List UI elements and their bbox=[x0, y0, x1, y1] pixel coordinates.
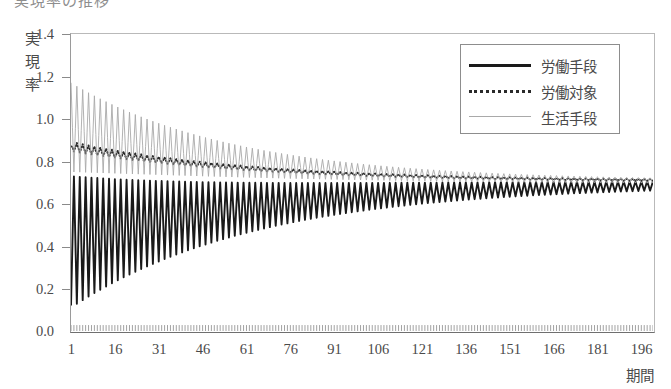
page-title: 実現率の推移 bbox=[14, 0, 110, 9]
x-axis-tick-label: 166 bbox=[534, 342, 574, 357]
x-axis-tick-label: 106 bbox=[358, 342, 398, 357]
y-axis-tick-label: 0.2 bbox=[10, 282, 54, 297]
y-axis-tick-label: 0.4 bbox=[10, 240, 54, 255]
legend-key-icon bbox=[469, 85, 531, 97]
legend-item: 労働手段 bbox=[469, 52, 611, 78]
x-axis-tick-label: 181 bbox=[578, 342, 618, 357]
legend-key-icon bbox=[469, 59, 531, 71]
y-axis-tick-mark bbox=[62, 34, 70, 35]
baseline-tick-comb bbox=[71, 325, 653, 331]
y-axis-tick-mark bbox=[62, 289, 70, 290]
legend-item-label: 労働手段 bbox=[531, 55, 597, 76]
y-axis-tick-mark bbox=[62, 162, 70, 163]
x-axis-tick-label: 121 bbox=[402, 342, 442, 357]
y-axis-tick-mark bbox=[62, 77, 70, 78]
x-axis-tick-label: 136 bbox=[446, 342, 486, 357]
x-axis-tick-label: 46 bbox=[183, 342, 223, 357]
x-axis-tick-label: 76 bbox=[271, 342, 311, 357]
series-line-solid-thick bbox=[71, 176, 653, 305]
clipped-title: 実現率の推移 bbox=[0, 0, 671, 9]
y-axis-tick-mark bbox=[62, 119, 70, 120]
y-axis-tick-label: 0.6 bbox=[10, 197, 54, 212]
legend-item-label: 生活手段 bbox=[531, 107, 597, 128]
x-axis-tick-label: 151 bbox=[490, 342, 530, 357]
x-axis-tick-label: 91 bbox=[315, 342, 355, 357]
legend: 労働手段 労働対象 生活手段 bbox=[460, 44, 620, 134]
x-axis-tick-label: 31 bbox=[139, 342, 179, 357]
y-axis-tick-label: 1.0 bbox=[10, 112, 54, 127]
y-axis-tick-label: 0.0 bbox=[10, 324, 54, 339]
y-axis-tick-mark bbox=[62, 247, 70, 248]
legend-item-label: 労働対象 bbox=[531, 81, 597, 102]
legend-key-icon bbox=[469, 111, 531, 123]
series-line-dotted bbox=[71, 143, 653, 181]
legend-item: 労働対象 bbox=[469, 78, 611, 104]
x-axis-tick-label: 16 bbox=[95, 342, 135, 357]
x-axis-tick-label: 196 bbox=[622, 342, 662, 357]
legend-item: 生活手段 bbox=[469, 104, 611, 130]
y-axis-tick-label: 0.8 bbox=[10, 155, 54, 170]
y-axis-tick-label: 1.4 bbox=[10, 27, 54, 42]
y-axis-tick-mark bbox=[62, 204, 70, 205]
x-axis-tick-label: 1 bbox=[51, 342, 91, 357]
x-axis-caption: 期間 bbox=[626, 364, 654, 385]
chart-page: 実現率の推移 実 現 率 1.41.21.00.80.60.40.20.0 11… bbox=[0, 0, 671, 389]
x-axis-tick-label: 61 bbox=[227, 342, 267, 357]
y-axis-tick-label: 1.2 bbox=[10, 70, 54, 85]
